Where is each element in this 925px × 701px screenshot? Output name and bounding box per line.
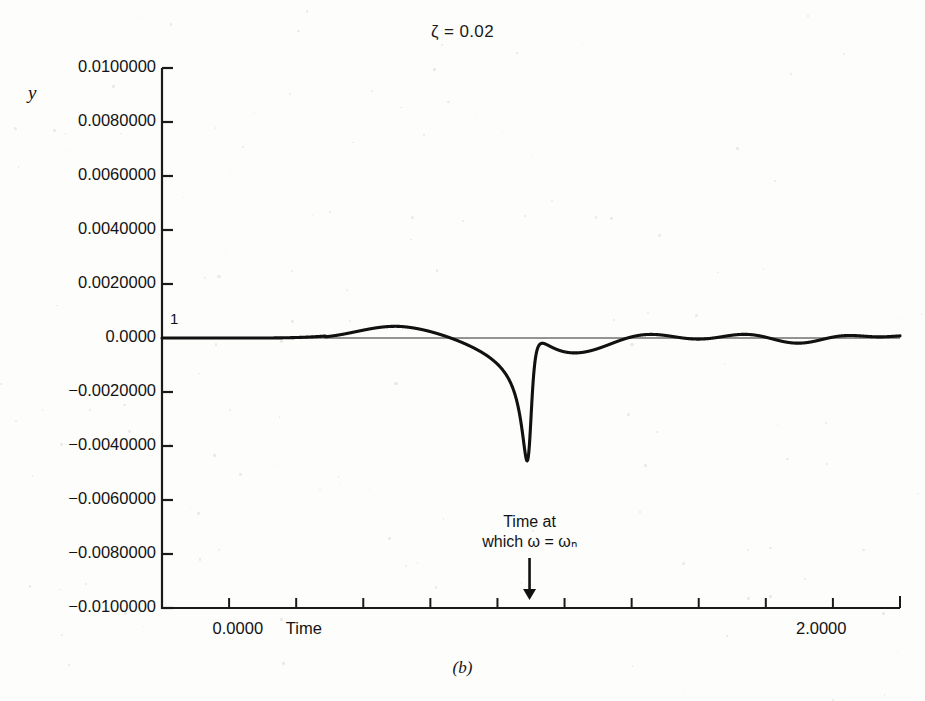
figure-panel: ζ = 0.02 y 0.01000000.00800000.00600000.… [0,0,925,701]
figure-caption: (b) [0,658,925,678]
plot-canvas [0,0,925,701]
response-curve [162,326,900,461]
annotation-arrow-icon [523,558,536,600]
